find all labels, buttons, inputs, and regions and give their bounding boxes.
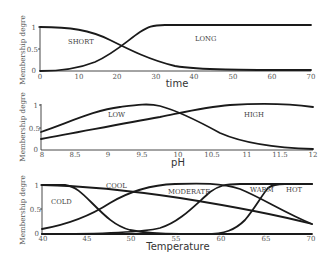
svg-text:40: 40 [190,73,199,81]
curve-label-cold: COLD [51,198,72,206]
svg-text:9: 9 [106,151,110,159]
svg-text:45: 45 [83,235,92,243]
curve-label-high: HIGH [244,111,264,119]
curve-long [40,25,311,71]
svg-text:70: 70 [307,73,316,81]
svg-text:65: 65 [262,235,271,243]
y-tick-label: 1 [35,182,39,190]
y-tick-label: 0.5 [29,125,40,133]
curve-label-short: SHORT [68,38,94,46]
svg-text:40: 40 [39,235,48,243]
svg-text:20: 20 [113,73,122,81]
curve-label-long: LONG [195,35,216,43]
curve-label-low: LOW [108,111,125,119]
panel-temperature: Membership degre 1 0.5 0 40 45 50 55 60 … [18,175,315,252]
y-tick-label: 0 [32,67,36,75]
curve-high [41,104,313,139]
panel-ph: Membership degre 1 0.5 0 8 8.5 9 9.5 10 … [18,92,317,168]
x-axis-label: time [166,78,189,89]
x-axis-label: Temperature [145,241,209,252]
curve-label-hot: HOT [286,186,302,194]
svg-text:0: 0 [38,73,42,81]
curve-label-cool: COOL [106,182,127,190]
svg-text:60: 60 [268,73,277,81]
y-tick-label: 0.5 [30,206,41,214]
y-tick-label: 0.5 [27,46,38,54]
curve-label-warm: WARM [250,186,274,194]
svg-text:11: 11 [243,151,252,159]
y-axis-label: Membership degre [18,15,27,84]
svg-text:10: 10 [75,73,84,81]
x-axis-label: pH [171,157,185,168]
svg-text:11.5: 11.5 [272,151,288,159]
svg-text:10.5: 10.5 [204,151,220,159]
y-tick-label: 1 [34,102,38,110]
svg-text:9.5: 9.5 [136,151,147,159]
membership-function-figure: Membership degre 1 0.5 0 0 10 20 30 40 5… [0,0,334,257]
y-axis-label: Membership degre [18,92,27,161]
curve-low [41,104,313,149]
svg-text:50: 50 [229,73,238,81]
y-axis-label: Membership degre [18,175,27,244]
curve-label-moderate: MODERATE [168,188,210,196]
svg-text:8: 8 [40,151,44,159]
svg-text:60: 60 [217,235,226,243]
svg-text:30: 30 [152,73,161,81]
y-tick-label: 1 [32,24,36,32]
svg-text:12: 12 [309,151,318,159]
svg-text:70: 70 [307,235,316,243]
y-tick-label: 0 [34,146,38,154]
svg-text:50: 50 [127,235,136,243]
curve-short [40,27,311,70]
panel-time: Membership degre 1 0.5 0 0 10 20 30 40 5… [18,15,315,89]
svg-text:8.5: 8.5 [69,151,80,159]
